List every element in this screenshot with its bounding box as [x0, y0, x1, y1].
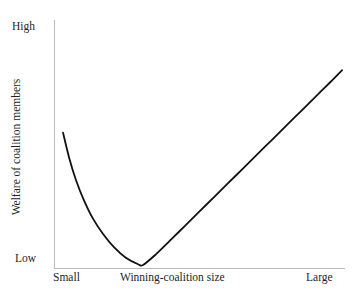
welfare-curve: [63, 70, 342, 266]
plot-area: [0, 0, 356, 300]
welfare-coalition-figure: High Low Welfare of coalition members Sm…: [0, 0, 356, 300]
